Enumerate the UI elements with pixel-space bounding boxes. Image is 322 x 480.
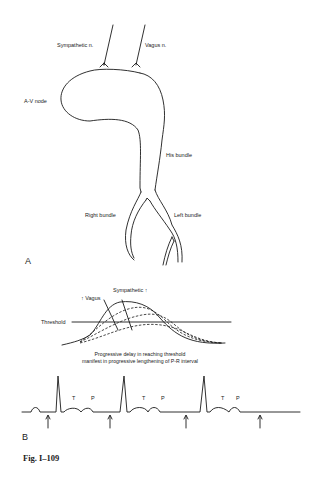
sympathetic-synapse-icon [100,63,108,67]
sympathetic-arrow-line [122,300,132,330]
panel-b-letter: B [22,432,28,442]
his-bundle-outer [140,73,165,190]
graph-caption: Progressive delay in reaching threshold … [60,351,220,364]
ecg-t-wave-label-1: T [72,395,75,401]
ecg-p-wave-label-1: P [91,395,95,401]
right-bundle-outer [125,192,141,260]
ecg-t-wave-label-2: T [142,395,145,401]
his-bundle-label: His bundle [166,152,192,158]
ecg-p-wave-label-2: P [161,395,165,401]
left-bundle-outer [155,190,182,262]
sympathetic-nerve-label: Sympathetic n. [57,42,93,48]
conduction-system-drawing [0,0,322,480]
ecg-p-wave-label-3: P [236,395,240,401]
av-node-label: A-V node [24,98,47,104]
caption-line-2: manifest in progressive lengthening of P… [60,358,220,365]
baseline-curve [62,302,225,345]
av-node-outline [61,69,141,192]
vagus-nerve-line [136,25,145,65]
vagus-nerve-label: Vagus n. [145,42,166,48]
panel-a-letter: A [25,256,31,266]
delayed-curve-1 [80,307,222,343]
sympathetic-increase-label: Sympathetic ↑ [113,287,148,293]
sympathetic-nerve-line [104,25,113,65]
figure-label: Fig. I–109 [23,453,59,463]
left-bundle-inner [150,201,178,262]
ecg-trace [22,376,300,412]
vagus-arrow-line [104,300,118,330]
left-bundle-fork-b [166,241,174,265]
vagus-increase-label: ↑ Vagus [81,295,100,301]
right-bundle-label: Right bundle [85,212,116,218]
threshold-label: Threshold [41,319,65,325]
ecg-t-wave-label-3: T [221,395,224,401]
left-bundle-label: Left bundle [174,212,201,218]
ecg-arrow-icons [46,415,262,428]
